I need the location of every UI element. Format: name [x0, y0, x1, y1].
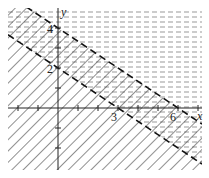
y-axis-label: y	[61, 6, 66, 18]
x-tick-label-3: 3	[111, 111, 117, 123]
x-tick-label-6: 6	[170, 111, 176, 123]
y-tick-label-2: 2	[47, 63, 53, 75]
x-axis-label: x	[197, 110, 202, 122]
inequality-graph	[0, 0, 209, 178]
y-tick-label-4: 4	[47, 23, 53, 35]
